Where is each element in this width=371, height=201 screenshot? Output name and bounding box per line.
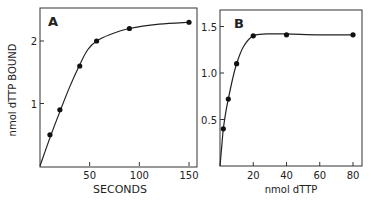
- data-point: [186, 20, 191, 25]
- data-point: [234, 61, 239, 66]
- x-tick-label: 80: [347, 170, 360, 181]
- panel-a-label: A: [48, 14, 58, 29]
- panel-b-xlabel: nmol dTTP: [265, 184, 318, 195]
- x-tick-label: 40: [280, 170, 293, 181]
- panel-b-curve: [220, 34, 353, 166]
- data-point: [221, 126, 226, 131]
- y-tick-label: 1.0: [201, 68, 217, 79]
- x-tick-label: 150: [179, 170, 198, 181]
- x-tick-label: 20: [247, 170, 260, 181]
- panel-a-curve: [40, 22, 189, 166]
- figure: A SECONDS nmol dTTP BOUND 5010015012 B n…: [0, 0, 371, 201]
- y-tick-label: 0.5: [201, 115, 217, 126]
- x-tick-label: 100: [130, 170, 149, 181]
- panel-a: A SECONDS nmol dTTP BOUND 5010015012: [7, 8, 199, 196]
- y-tick-label: 1.5: [201, 22, 217, 33]
- panel-b-ticks: 204060800.51.01.5: [201, 22, 359, 182]
- panel-b: B nmol dTTP 204060800.51.01.5: [201, 10, 362, 195]
- data-point: [57, 107, 62, 112]
- panel-b-frame: [220, 10, 362, 166]
- panel-b-label: B: [234, 16, 244, 31]
- panel-a-ylabel: nmol dTTP BOUND: [7, 43, 18, 136]
- x-tick-label: 60: [313, 170, 326, 181]
- data-point: [350, 32, 355, 37]
- data-point: [47, 132, 52, 137]
- y-tick-label: 1: [31, 99, 37, 110]
- panel-a-points: [47, 20, 191, 138]
- data-point: [251, 33, 256, 38]
- panel-b-points: [221, 32, 356, 131]
- y-tick-label: 2: [31, 36, 37, 47]
- data-point: [226, 96, 231, 101]
- panel-a-xlabel: SECONDS: [93, 183, 147, 196]
- data-point: [127, 26, 132, 31]
- x-tick-label: 50: [83, 170, 96, 181]
- data-point: [77, 63, 82, 68]
- data-point: [284, 32, 289, 37]
- data-point: [94, 38, 99, 43]
- panel-a-ticks: 5010015012: [31, 36, 199, 181]
